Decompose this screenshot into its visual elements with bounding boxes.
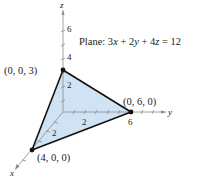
z-tick-6: 6	[67, 24, 72, 34]
label-z-intercept: (0, 0, 3)	[4, 65, 38, 77]
point-z-intercept	[61, 68, 66, 73]
y-tick-6: 6	[128, 117, 133, 127]
z-axis-label: z	[59, 0, 64, 10]
point-y-intercept	[129, 110, 134, 115]
point-x-intercept	[30, 148, 35, 153]
plane-equation: Plane: 3x + 2y + 4z = 12	[79, 36, 181, 47]
label-x-intercept: (4, 0, 0)	[37, 152, 71, 164]
x-tick-2: 2	[52, 128, 57, 138]
y-axis-arrow	[161, 111, 167, 114]
z-tick-4: 4	[67, 52, 72, 62]
y-axis-label: y	[167, 107, 172, 117]
y-tick-2: 2	[82, 117, 87, 127]
x-axis-label: x	[9, 168, 14, 177]
label-y-intercept: (0, 6, 0)	[123, 96, 157, 108]
z-tick-2: 2	[67, 80, 72, 90]
plane-diagram: z y x 6 4 2 2 6 2 (0, 0, 3) (0, 6, 0) (4…	[0, 0, 203, 177]
